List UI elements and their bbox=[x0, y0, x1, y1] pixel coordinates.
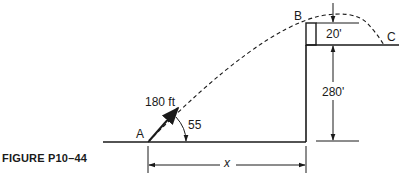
trajectory-path bbox=[148, 14, 384, 142]
angle-arc bbox=[176, 117, 186, 141]
angle-label: 55 bbox=[188, 119, 201, 131]
point-c-label: C bbox=[387, 31, 396, 43]
ledge-height-label: 20' bbox=[326, 28, 342, 40]
cliff-height-label: 280' bbox=[322, 86, 344, 98]
velocity-vector bbox=[149, 108, 178, 141]
post-block bbox=[306, 23, 316, 45]
figure-caption: FIGURE P10–44 bbox=[2, 153, 87, 164]
point-a-label: A bbox=[136, 128, 144, 140]
distance-x-label: x bbox=[224, 157, 230, 169]
velocity-label: 180 ft bbox=[145, 96, 175, 108]
point-b-label: B bbox=[294, 10, 302, 22]
